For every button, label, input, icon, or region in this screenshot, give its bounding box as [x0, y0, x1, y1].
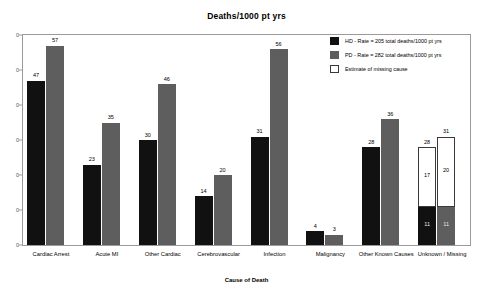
bar-segment [27, 81, 45, 246]
bar-value-label: 47 [27, 73, 45, 79]
bar-group: 2335 [79, 35, 135, 245]
bar-hd[interactable]: 4 [306, 231, 324, 245]
bar-group: 1420 [191, 35, 247, 245]
bar-hd[interactable]: 111728 [418, 147, 436, 245]
bar-segment-missing: 17 [418, 147, 436, 207]
bar-value-label: 56 [270, 42, 288, 48]
bar-pd[interactable]: 56 [270, 49, 288, 245]
bar-pd[interactable]: 36 [381, 119, 399, 245]
legend-label: HD - Rate = 205 total deaths/1000 pt yrs [345, 38, 442, 44]
x-axis-tick-label: Malignancy [302, 250, 358, 258]
bar-value-label: 35 [102, 115, 120, 121]
bar-pd[interactable]: 35 [102, 123, 120, 246]
bar-segment [381, 119, 399, 245]
bar-pd[interactable]: 57 [46, 46, 64, 246]
bar-segment [139, 140, 157, 245]
bar-hd[interactable]: 30 [139, 140, 157, 245]
bar-hd[interactable]: 31 [251, 137, 269, 246]
x-axis-tick-label: Cerebrovascular [191, 250, 247, 258]
bar-segment [251, 137, 269, 246]
bar-segment [158, 84, 176, 245]
bar-value-label: 31 [251, 129, 269, 135]
legend-swatch-icon [330, 37, 339, 45]
bar-segment-missing: 20 [437, 137, 455, 207]
bar-value-label: 30 [139, 133, 157, 139]
bar-value-label: 28 [418, 140, 436, 146]
bar-segment [214, 175, 232, 245]
legend-item[interactable]: PD - Rate = 282 total deaths/1000 pt yrs [330, 50, 471, 59]
bar-value-label: 14 [195, 189, 213, 195]
legend-swatch-icon [330, 51, 339, 59]
legend-item[interactable]: HD - Rate = 205 total deaths/1000 pt yrs [330, 36, 471, 45]
bar-value-label: 4 [306, 224, 324, 230]
chart-legend: HD - Rate = 205 total deaths/1000 pt yrs… [330, 36, 471, 78]
bar-segment-known: 11 [437, 207, 455, 246]
bar-hd[interactable]: 28 [362, 147, 380, 245]
bar-segment [102, 123, 120, 246]
bar-hd[interactable]: 14 [195, 196, 213, 245]
bar-group: 4757 [23, 35, 79, 245]
bar-pd[interactable]: 46 [158, 84, 176, 245]
legend-swatch-icon [330, 65, 339, 73]
bar-segment [362, 147, 380, 245]
y-axis: 0000000 [0, 34, 22, 247]
bar-segment [83, 165, 101, 246]
bar-group: 3046 [135, 35, 191, 245]
x-axis-tick-label: Infection [247, 250, 303, 258]
legend-item[interactable]: Estimate of missing cause [330, 64, 471, 73]
bar-value-label: 23 [83, 157, 101, 163]
bar-hd[interactable]: 47 [27, 81, 45, 246]
bar-segment-known: 11 [418, 207, 436, 246]
x-axis-tick-label: Acute MI [79, 250, 135, 258]
x-axis-tick-label: Unknown / Missing [414, 250, 470, 258]
bar-segment-value: 20 [438, 168, 454, 174]
bar-segment-value: 11 [438, 222, 454, 228]
bar-value-label: 3 [325, 227, 343, 233]
bar-value-label: 31 [437, 129, 455, 135]
bar-value-label: 28 [362, 140, 380, 146]
legend-label: PD - Rate = 282 total deaths/1000 pt yrs [345, 52, 441, 58]
bar-segment-value: 11 [419, 222, 435, 228]
bar-segment [270, 49, 288, 245]
x-axis-tick-label: Cardiac Arrest [23, 250, 79, 258]
x-axis-labels: Cardiac ArrestAcute MIOther CardiacCereb… [23, 250, 470, 276]
bar-value-label: 57 [46, 38, 64, 44]
bar-segment [195, 196, 213, 245]
chart-root: Deaths/1000 pt yrs 0000000 4757233530461… [0, 0, 493, 300]
bar-segment-value: 17 [419, 173, 435, 179]
x-axis-tick-label: Other Cardiac [135, 250, 191, 258]
bar-value-label: 20 [214, 168, 232, 174]
bar-pd[interactable]: 20 [214, 175, 232, 245]
x-axis-tick-label: Other Known Causes [358, 250, 414, 258]
bar-pd[interactable]: 3 [325, 235, 343, 246]
bar-group: 3156 [247, 35, 303, 245]
x-axis-title: Cause of Death [0, 277, 493, 283]
bar-pd[interactable]: 112031 [437, 137, 455, 246]
bar-value-label: 46 [158, 77, 176, 83]
bar-segment [306, 231, 324, 245]
bar-segment [46, 46, 64, 246]
legend-label: Estimate of missing cause [345, 66, 408, 72]
bar-hd[interactable]: 23 [83, 165, 101, 246]
bar-value-label: 36 [381, 112, 399, 118]
bar-segment [325, 235, 343, 246]
chart-title: Deaths/1000 pt yrs [0, 11, 493, 21]
